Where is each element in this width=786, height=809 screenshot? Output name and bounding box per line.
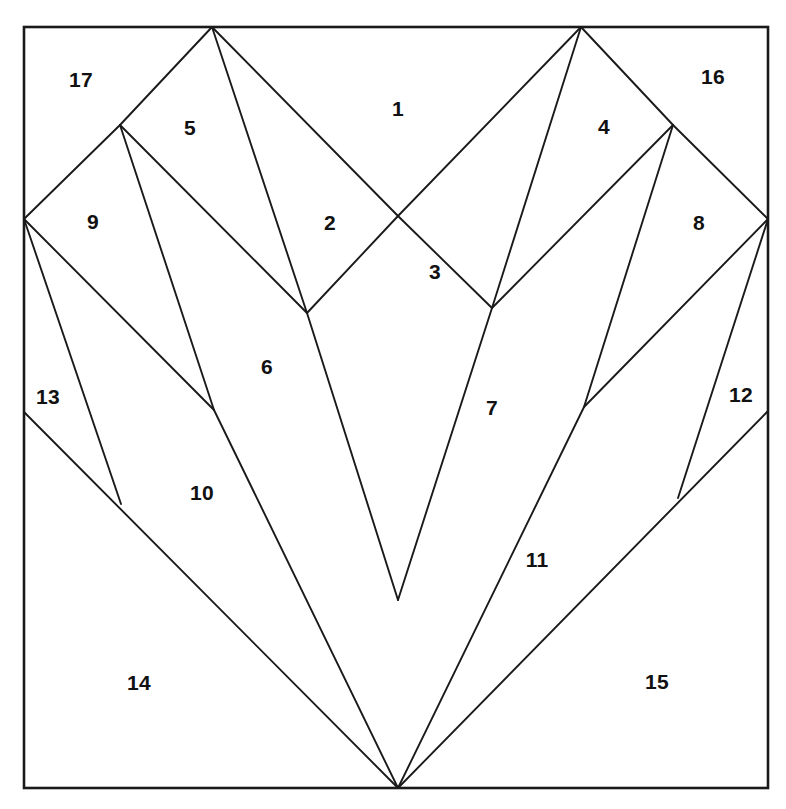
region-label-7: 7 <box>486 397 498 418</box>
region-label-15: 15 <box>645 671 669 692</box>
region-label-1: 1 <box>392 98 404 119</box>
region-label-14: 14 <box>127 672 151 693</box>
region-label-10: 10 <box>190 482 214 503</box>
region-label-8: 8 <box>693 212 705 233</box>
region-label-13: 13 <box>36 386 60 407</box>
region-label-12: 12 <box>729 384 753 405</box>
region-label-11: 11 <box>526 549 549 570</box>
region-label-4: 4 <box>598 116 610 137</box>
region-label-16: 16 <box>701 66 725 87</box>
region-label-17: 17 <box>69 69 93 90</box>
region-label-2: 2 <box>324 212 336 233</box>
region-label-5: 5 <box>184 117 196 138</box>
region-label-9: 9 <box>87 211 99 232</box>
region-label-3: 3 <box>429 261 441 282</box>
diagram-canvas: 1234567891011121314151617 <box>0 0 786 809</box>
region-label-6: 6 <box>261 356 273 377</box>
